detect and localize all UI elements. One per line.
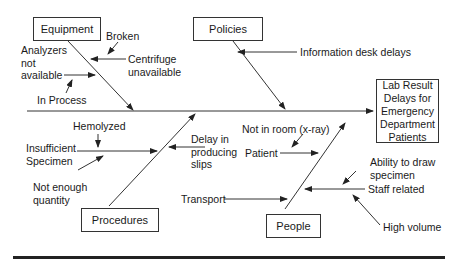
cause-not-enough: Not enough quantity <box>33 181 87 206</box>
cause-ability: Ability to draw specimen <box>370 156 435 181</box>
cause-high-volume: High volume <box>383 221 441 234</box>
cause-in-process: In Process <box>37 94 87 107</box>
category-equipment: Equipment <box>33 17 101 41</box>
cause-insufficient: Insufficient Specimen <box>26 142 76 167</box>
cause-centrifuge: Centrifuge unavailable <box>128 53 181 78</box>
effect-box: Lab Result Delays for Emergency Departme… <box>376 79 439 143</box>
bottom-rule <box>13 256 445 259</box>
category-procedures: Procedures <box>81 208 159 232</box>
cause-staff: Staff related <box>368 183 424 196</box>
cause-broken: Broken <box>106 30 139 43</box>
cause-transport: Transport <box>181 193 226 206</box>
cause-analyzers: Analyzers not available <box>21 44 67 82</box>
category-people: People <box>266 214 321 238</box>
category-policies: Policies <box>193 17 263 41</box>
cause-info-desk: Information desk delays <box>300 46 411 59</box>
cause-not-in-room: Not in room (x-ray) <box>242 123 330 136</box>
cause-hemolyzed: Hemolyzed <box>73 120 126 133</box>
cause-patient: Patient <box>245 147 278 160</box>
cause-delay-slips: Delay in producing slips <box>191 133 237 171</box>
